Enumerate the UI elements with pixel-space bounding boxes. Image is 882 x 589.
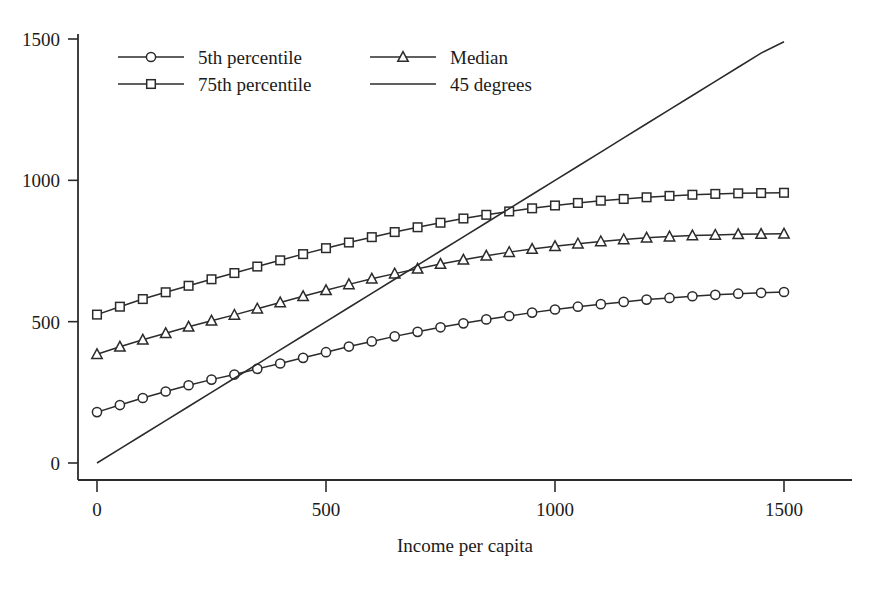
circle-marker [390,332,399,341]
square-marker [642,193,651,202]
circle-marker [413,327,422,336]
circle-marker [161,387,170,396]
circle-marker [665,293,674,302]
circle-marker [619,297,628,306]
square-marker [299,250,308,259]
y-tick-label: 1500 [22,29,60,50]
legend-item-median: Median [370,47,509,68]
legend-item-5th-percentile: 5th percentile [118,47,302,68]
legend-item-45-degrees: 45 degrees [370,74,532,95]
series-median [92,228,789,358]
square-marker [734,189,743,198]
square-marker [116,302,125,311]
circle-marker [459,319,468,328]
x-tick-label: 1000 [536,499,574,520]
legend-item-75th-percentile: 75th percentile [118,74,311,95]
square-marker [161,288,170,297]
series-45-degrees [97,42,784,463]
y-tick-label: 1000 [22,170,60,191]
square-marker [413,223,422,232]
square-marker [207,275,216,284]
circle-marker [688,292,697,301]
square-marker [528,204,537,213]
circle-marker [573,302,582,311]
square-marker [574,199,583,208]
circle-marker [299,353,308,362]
circle-marker [367,337,376,346]
square-marker [619,195,628,204]
series-path [97,292,784,412]
circle-marker [596,300,605,309]
square-marker [390,228,399,237]
circle-marker [757,288,766,297]
circle-marker [734,289,743,298]
circle-marker [482,315,491,324]
square-marker [757,189,766,198]
circle-marker [505,311,514,320]
circle-marker [711,290,720,299]
x-axis-ticks: 050010001500 [92,480,803,520]
series-5th-percentile [92,287,788,416]
circle-marker [344,342,353,351]
square-marker [711,190,720,199]
chart-figure: 050010001500 050010001500 5th percentile… [0,0,882,589]
legend-item-label: Median [450,47,509,68]
square-marker [93,310,102,319]
circle-marker [321,348,330,357]
chart-legend: 5th percentileMedian75th percentile45 de… [118,47,532,95]
square-marker [482,211,491,220]
legend-circle-marker [146,52,155,61]
series-75th-percentile [93,188,789,318]
legend-item-label: 45 degrees [450,74,532,95]
circle-marker [207,375,216,384]
circle-marker [184,381,193,390]
circle-marker [779,287,788,296]
square-marker [276,256,285,265]
reference-line-45-degrees [97,42,784,463]
square-marker [322,244,331,253]
circle-marker [528,308,537,317]
square-marker [230,269,239,278]
y-tick-label: 500 [32,312,61,333]
x-tick-label: 500 [312,499,341,520]
circle-marker [642,295,651,304]
circle-marker [436,323,445,332]
y-tick-label: 0 [51,453,61,474]
x-tick-label: 1500 [765,499,803,520]
square-marker [368,233,377,242]
circle-marker [92,408,101,417]
circle-marker [276,359,285,368]
x-tick-label: 0 [92,499,102,520]
x-axis-title: Income per capita [397,535,534,556]
square-marker [436,218,445,227]
square-marker [665,192,674,201]
circle-marker [115,400,124,409]
square-marker [597,196,606,205]
series-layer [92,42,789,463]
circle-marker [138,393,147,402]
square-marker [780,188,789,197]
square-marker [253,262,262,271]
legend-square-marker [147,80,156,89]
square-marker [139,295,148,304]
circle-marker [550,305,559,314]
square-marker [345,238,354,247]
income-distribution-line-chart: 050010001500 050010001500 5th percentile… [0,0,882,589]
y-axis-ticks: 050010001500 [22,29,78,474]
legend-item-label: 75th percentile [198,74,311,95]
square-marker [551,201,560,210]
square-marker [459,214,468,223]
square-marker [688,190,697,199]
legend-item-label: 5th percentile [198,47,302,68]
square-marker [184,281,193,290]
